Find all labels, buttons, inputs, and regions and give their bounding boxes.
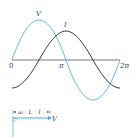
dimension-arrow-right-icon	[47, 111, 50, 113]
axis-label-pi: π	[58, 62, 64, 70]
inductor-voltage-current-diagram: V I 0 π 2π V ω · L · I	[0, 0, 139, 137]
dimension-arrow-left-icon	[13, 111, 16, 113]
phasor-magnitude-label: ω · L · I	[18, 108, 41, 115]
current-curve-label: I	[63, 21, 67, 29]
axis-label-two-pi: 2π	[119, 62, 129, 70]
voltage-curve-label: V	[36, 10, 42, 18]
phasor-vector-label: V	[52, 115, 58, 123]
axis-label-zero: 0	[9, 62, 13, 70]
